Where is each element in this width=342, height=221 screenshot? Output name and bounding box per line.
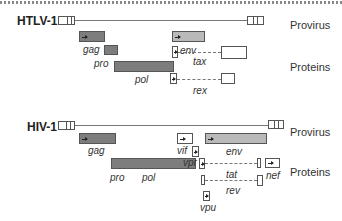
htlv1-provirus-label: Provirus bbox=[290, 19, 330, 31]
hiv1-proteins-label: Proteins bbox=[290, 166, 330, 178]
hiv1-nef-label: nef bbox=[266, 170, 280, 181]
htlv1-env-box bbox=[172, 31, 205, 42]
hiv1-vpu-box bbox=[203, 191, 210, 201]
start-arrow-icon bbox=[194, 152, 197, 153]
start-arrow-icon bbox=[205, 196, 208, 197]
htlv1-3-ltr bbox=[247, 16, 264, 25]
hiv1-5-ltr bbox=[58, 121, 75, 130]
top-dotted-border bbox=[0, 1, 342, 4]
htlv1-pol-box bbox=[114, 61, 174, 72]
hiv1-tat-splice bbox=[205, 163, 257, 164]
hiv1-title: HIV-1 bbox=[27, 120, 57, 134]
start-arrow-icon bbox=[208, 139, 213, 140]
hiv1-pol-label: pol bbox=[142, 172, 155, 183]
htlv1-title: HTLV-1 bbox=[17, 14, 57, 28]
htlv1-tax-splice bbox=[178, 52, 221, 53]
htlv1-pro-box bbox=[104, 45, 118, 55]
htlv1-tax-label: tax bbox=[193, 56, 206, 67]
htlv1-provirus-line bbox=[75, 20, 247, 21]
start-arrow-icon bbox=[180, 139, 185, 140]
hiv1-gag-box bbox=[79, 133, 116, 144]
htlv1-rex-label: rex bbox=[193, 85, 207, 96]
hiv1-tat-exon2 bbox=[257, 158, 261, 168]
hiv1-vif-label: vif bbox=[177, 145, 187, 156]
htlv1-5-ltr bbox=[58, 16, 75, 25]
hiv1-env-label: env bbox=[226, 146, 242, 157]
hiv1-vpr-label: vpr bbox=[183, 157, 197, 168]
hiv1-rev-splice bbox=[205, 180, 257, 181]
hiv1-provirus-label: Provirus bbox=[290, 126, 330, 138]
hiv1-nef-box bbox=[265, 158, 280, 168]
htlv1-gag-box bbox=[79, 31, 105, 42]
htlv1-gag-label: gag bbox=[83, 44, 100, 55]
hiv1-vpr-box bbox=[192, 146, 199, 157]
start-arrow-icon bbox=[82, 139, 87, 140]
htlv1-proteins-label: Proteins bbox=[290, 61, 330, 73]
hiv1-vpu-label: vpu bbox=[200, 202, 216, 213]
htlv1-rex-exon1 bbox=[170, 73, 177, 84]
hiv1-provirus-line bbox=[75, 125, 268, 126]
start-arrow-icon bbox=[268, 163, 273, 164]
hiv1-3-ltr bbox=[268, 120, 284, 129]
start-arrow-icon bbox=[172, 79, 175, 80]
htlv1-rex-splice bbox=[177, 79, 221, 80]
htlv1-tax-exon2 bbox=[221, 46, 247, 59]
hiv1-tat-label: tat bbox=[226, 169, 237, 180]
hiv1-gag-label: gag bbox=[88, 145, 105, 156]
start-arrow-icon bbox=[175, 37, 180, 38]
start-arrow-icon bbox=[82, 37, 87, 38]
start-arrow-icon bbox=[201, 164, 204, 165]
hiv1-vif-box bbox=[177, 133, 193, 144]
hiv1-rev-label: rev bbox=[226, 185, 240, 196]
htlv1-env-label: env bbox=[180, 45, 196, 56]
hiv1-rev-exon2 bbox=[257, 175, 263, 186]
htlv1-pol-label: pol bbox=[135, 74, 148, 85]
htlv1-pro-label: pro bbox=[94, 58, 108, 69]
hiv1-env-box bbox=[205, 133, 267, 144]
start-arrow-icon bbox=[174, 52, 177, 53]
hiv1-pro-label: pro bbox=[110, 172, 124, 183]
htlv1-rex-exon2 bbox=[221, 73, 235, 84]
